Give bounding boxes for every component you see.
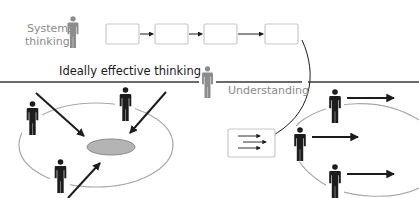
- svg-text:Systems: Systems: [27, 22, 74, 35]
- understanding-label: Understanding: [228, 84, 309, 97]
- ideally-effective-label: Ideally effective thinking: [59, 64, 201, 78]
- process-box-4: [265, 24, 298, 44]
- systems-thinking-diagram: Systems thinking Ideally effective think…: [0, 0, 419, 198]
- inward-arrow-3: [68, 163, 100, 198]
- right-cluster-ellipse: [292, 104, 419, 197]
- process-box-3: [204, 24, 237, 44]
- inward-arrow-2: [130, 92, 166, 133]
- understanding-figure-icon: [202, 66, 213, 98]
- process-box-2: [155, 24, 188, 44]
- systems-thinking-label: Systems thinking: [25, 22, 74, 48]
- svg-text:thinking: thinking: [25, 35, 70, 48]
- shared-focus-oval: [87, 139, 135, 155]
- process-box-1: [106, 24, 139, 44]
- right-cluster-people: [291, 88, 344, 198]
- aligned-arrows-box: [228, 129, 275, 157]
